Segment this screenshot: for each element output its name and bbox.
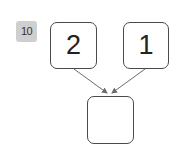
top-right-number-box: 1	[123, 22, 169, 69]
answer-box[interactable]	[87, 96, 134, 144]
top-left-number-box: 2	[50, 22, 97, 69]
arrow-left-to-bottom	[74, 69, 107, 93]
arrow-right-to-bottom	[112, 69, 145, 93]
